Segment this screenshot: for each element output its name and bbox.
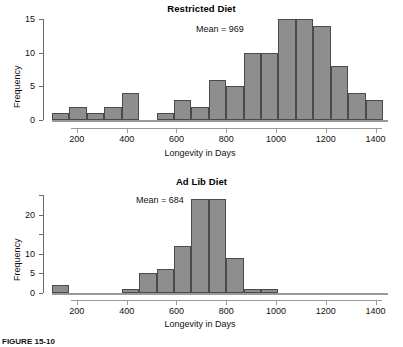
y-axis-tick-label: 0 (7, 116, 35, 125)
x-axis-tick (176, 301, 177, 305)
x-axis-tick (376, 301, 377, 305)
x-axis-tick (77, 301, 78, 305)
x-axis-tick-label: 1200 (306, 307, 346, 316)
histogram-bar (52, 113, 69, 120)
x-axis-title-restricted-diet: Longevity in Days (30, 148, 370, 158)
x-axis-line (52, 293, 388, 295)
histogram-bar (87, 113, 104, 120)
x-axis-line (52, 120, 388, 122)
y-axis-tick (39, 234, 43, 235)
x-axis-tick-label: 1400 (356, 307, 396, 316)
plot-area-ad-lib-diet (52, 191, 388, 293)
x-axis-tick (176, 129, 177, 133)
x-axis-tick (127, 129, 128, 133)
y-axis-tick-label: 0 (7, 289, 35, 298)
x-axis-tick-label: 1200 (306, 135, 346, 144)
x-axis-tick-label: 1000 (256, 307, 296, 316)
y-axis-tick (39, 195, 43, 196)
histogram-bar (331, 66, 348, 120)
x-axis-tick (326, 129, 327, 133)
x-axis-tick (276, 301, 277, 305)
x-axis-tick (226, 301, 227, 305)
histogram-bar (226, 86, 243, 120)
histogram-bar (348, 93, 365, 120)
histogram-bar (52, 285, 69, 293)
x-axis-tick (226, 129, 227, 133)
x-axis-tick-label: 200 (57, 307, 97, 316)
x-axis-tick (127, 301, 128, 305)
y-axis-tick (39, 19, 43, 20)
y-axis-line (43, 195, 44, 293)
histogram-bar (174, 100, 191, 120)
x-axis-title-ad-lib-diet: Longevity in Days (30, 319, 370, 329)
x-axis-tick-label: 1000 (256, 135, 296, 144)
histogram-bar (69, 107, 86, 120)
histogram-bar (209, 80, 226, 120)
chart-title-restricted-diet: Restricted Diet (0, 3, 403, 14)
mean-annotation-ad-lib-diet: Mean = 684 (136, 195, 184, 205)
histogram-bar (261, 53, 278, 120)
x-axis-tick (276, 129, 277, 133)
y-axis-tick (39, 120, 43, 121)
x-axis-tick (376, 129, 377, 133)
histogram-bar (366, 100, 383, 120)
y-axis-tick-label: 10 (7, 250, 35, 259)
x-axis-tick-label: 600 (156, 135, 196, 144)
y-axis-tick-label: 20 (7, 211, 35, 220)
x-axis-tick (77, 129, 78, 133)
plot-area-restricted-diet (52, 16, 388, 120)
chart-panel-ad-lib-diet: Ad Lib Diet Frequency 200400600800100012… (0, 173, 403, 339)
y-axis-tick-label: 5 (7, 269, 35, 278)
x-axis-tick (326, 301, 327, 305)
y-axis-tick (39, 254, 43, 255)
chart-panel-restricted-diet: Restricted Diet Mean = 969 Frequency 200… (0, 0, 403, 174)
histogram-bar (244, 53, 261, 120)
bar-series-restricted-diet (52, 16, 388, 120)
y-axis-line (43, 19, 44, 120)
histogram-bar (191, 107, 208, 120)
y-axis-tick (39, 293, 43, 294)
y-axis-tick-label: 15 (7, 15, 35, 24)
histogram-bar (226, 258, 243, 293)
histogram-bar (296, 19, 313, 120)
histogram-bar (157, 269, 174, 293)
x-axis-tick-label: 200 (57, 135, 97, 144)
chart-title-ad-lib-diet: Ad Lib Diet (0, 176, 403, 187)
histogram-bar (278, 19, 295, 120)
histogram-bar (157, 113, 174, 120)
figure-caption: FIGURE 15-10 (2, 337, 55, 347)
histogram-bar (191, 199, 208, 293)
histogram-bar (122, 93, 139, 120)
y-axis-tick-label: 5 (7, 82, 35, 91)
x-axis-tick-label: 800 (206, 135, 246, 144)
y-axis-tick (39, 273, 43, 274)
y-axis-tick (39, 215, 43, 216)
x-axis-tick-label: 1400 (356, 135, 396, 144)
y-axis-tick (39, 86, 43, 87)
x-axis-tick-label: 800 (206, 307, 246, 316)
x-axis-tick-label: 400 (107, 135, 147, 144)
x-axis-tick-label: 600 (156, 307, 196, 316)
x-axis-tick-label: 400 (107, 307, 147, 316)
histogram-bar (104, 107, 121, 120)
histogram-bar (139, 273, 156, 293)
y-axis-tick (39, 53, 43, 54)
bar-series-ad-lib-diet (52, 191, 388, 293)
histogram-bar (209, 199, 226, 293)
histogram-bar (313, 26, 330, 120)
histogram-bar (174, 246, 191, 293)
y-axis-tick-label: 10 (7, 49, 35, 58)
